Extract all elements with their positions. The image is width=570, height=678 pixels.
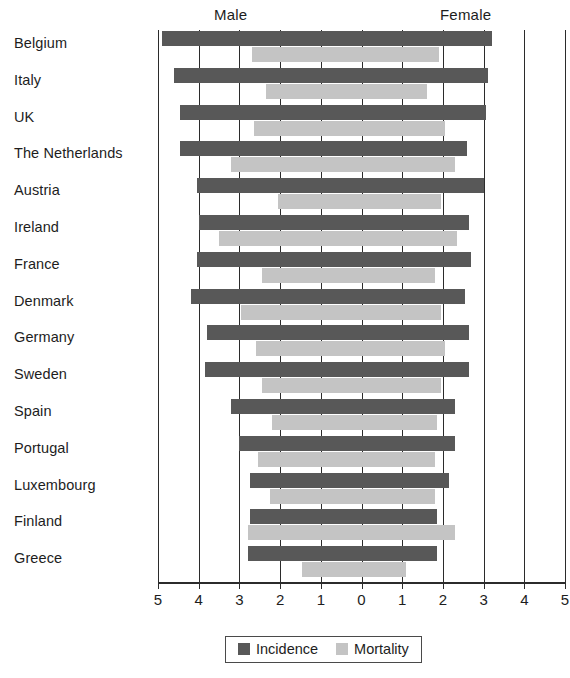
plot-area — [158, 30, 565, 582]
axis-tick — [280, 582, 281, 589]
bar-row — [158, 104, 565, 141]
bar-mortality — [262, 378, 441, 393]
axis-tick — [199, 582, 200, 589]
bar-incidence — [174, 68, 487, 83]
value-axis: 54321012345 — [158, 582, 565, 612]
country-label: UK — [14, 107, 138, 127]
legend-entry-incidence: Incidence — [238, 641, 318, 657]
legend-swatch-mortality-icon — [336, 643, 348, 655]
bar-mortality — [278, 194, 441, 209]
gridline — [565, 30, 566, 582]
bar-incidence — [197, 252, 472, 267]
bar-incidence — [207, 325, 470, 340]
axis-tick-label: 2 — [428, 591, 458, 608]
country-label: Germany — [14, 327, 138, 347]
bar-incidence — [205, 362, 470, 377]
axis-tick-label: 5 — [143, 591, 173, 608]
axis-tick — [484, 582, 485, 589]
axis-tick — [524, 582, 525, 589]
bar-mortality — [258, 452, 435, 467]
plot-inner — [158, 30, 565, 582]
bar-mortality — [252, 47, 439, 62]
bar-row — [158, 214, 565, 251]
axis-tick-label: 0 — [347, 591, 377, 608]
bar-row — [158, 67, 565, 104]
bar-incidence — [197, 178, 484, 193]
axis-tick — [239, 582, 240, 589]
axis-tick-label: 3 — [224, 591, 254, 608]
bar-row — [158, 545, 565, 582]
bar-incidence — [239, 436, 455, 451]
bar-incidence — [180, 141, 467, 156]
axis-tick — [402, 582, 403, 589]
country-label: Italy — [14, 70, 138, 90]
bar-mortality — [272, 415, 437, 430]
bar-mortality — [302, 562, 406, 577]
bar-row — [158, 288, 565, 325]
bar-mortality — [262, 268, 435, 283]
bar-mortality — [266, 84, 427, 99]
axis-tick — [158, 582, 159, 589]
legend-label-mortality: Mortality — [354, 641, 409, 657]
bar-row — [158, 435, 565, 472]
bar-mortality — [248, 525, 456, 540]
country-label: Spain — [14, 401, 138, 421]
axis-tick — [362, 582, 363, 589]
country-label: France — [14, 254, 138, 274]
country-label: Sweden — [14, 364, 138, 384]
category-axis-labels: BelgiumItalyUKThe NetherlandsAustriaIrel… — [0, 30, 142, 575]
legend: Incidence Mortality — [225, 636, 422, 663]
axis-tick-label: 2 — [265, 591, 295, 608]
diverging-bar-chart: Male Female BelgiumItalyUKThe Netherland… — [0, 0, 570, 678]
bar-mortality — [231, 157, 455, 172]
female-side-label: Female — [440, 6, 491, 23]
country-label: Austria — [14, 180, 138, 200]
axis-tick — [565, 582, 566, 589]
axis-tick-label: 1 — [387, 591, 417, 608]
axis-tick-label: 5 — [550, 591, 570, 608]
axis-tick-label: 3 — [469, 591, 499, 608]
country-label: Finland — [14, 511, 138, 531]
axis-tick-label: 4 — [184, 591, 214, 608]
axis-tick — [443, 582, 444, 589]
bar-incidence — [250, 473, 449, 488]
male-side-label: Male — [214, 6, 247, 23]
bar-mortality — [219, 231, 457, 246]
bar-row — [158, 361, 565, 398]
country-label: The Netherlands — [14, 143, 138, 163]
bar-row — [158, 177, 565, 214]
bar-incidence — [199, 215, 470, 230]
bar-incidence — [250, 509, 437, 524]
bar-row — [158, 398, 565, 435]
bar-row — [158, 324, 565, 361]
bar-row — [158, 508, 565, 545]
bar-mortality — [270, 489, 435, 504]
bar-row — [158, 472, 565, 509]
bar-row — [158, 30, 565, 67]
bar-mortality — [254, 121, 445, 136]
country-label: Greece — [14, 548, 138, 568]
legend-entry-mortality: Mortality — [336, 641, 409, 657]
axis-tick-label: 4 — [509, 591, 539, 608]
bar-incidence — [191, 289, 466, 304]
country-label: Ireland — [14, 217, 138, 237]
bar-incidence — [231, 399, 455, 414]
axis-tick — [321, 582, 322, 589]
country-label: Portugal — [14, 438, 138, 458]
bar-incidence — [162, 31, 492, 46]
bar-mortality — [256, 341, 445, 356]
bar-row — [158, 140, 565, 177]
legend-swatch-incidence-icon — [238, 643, 250, 655]
bar-mortality — [241, 305, 440, 320]
country-label: Luxembourg — [14, 475, 138, 495]
bar-incidence — [248, 546, 437, 561]
bar-row — [158, 251, 565, 288]
country-label: Belgium — [14, 33, 138, 53]
country-label: Denmark — [14, 291, 138, 311]
legend-label-incidence: Incidence — [256, 641, 318, 657]
axis-tick-label: 1 — [306, 591, 336, 608]
bar-incidence — [180, 105, 485, 120]
